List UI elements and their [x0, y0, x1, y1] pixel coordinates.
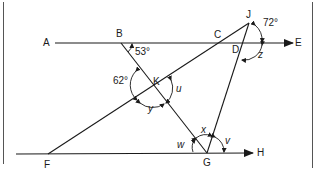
- angle-label-62: 62°: [113, 76, 128, 86]
- angle-label-y: y: [148, 104, 153, 114]
- point-label-A: A: [43, 38, 50, 48]
- line-FH: [16, 153, 253, 154]
- angle-arc-u: [166, 80, 173, 103]
- angle-label-w: w: [177, 140, 184, 150]
- point-label-G: G: [203, 158, 211, 168]
- angle-arc-62: [130, 71, 137, 100]
- geometry-diagram: A B C D E F G H J K 53° 62° 72° u y z x …: [0, 0, 319, 174]
- angle-label-x: x: [201, 125, 206, 135]
- point-label-K: K: [153, 77, 160, 87]
- angle-arc-53: [128, 44, 132, 52]
- angle-arc-v: [215, 137, 224, 152]
- point-label-D: D: [232, 45, 239, 55]
- angle-label-z: z: [258, 50, 263, 60]
- angle-label-53: 53°: [135, 47, 150, 57]
- angle-arc-72: [255, 25, 262, 42]
- point-label-E: E: [295, 38, 302, 48]
- point-label-F: F: [44, 160, 50, 170]
- point-label-C: C: [214, 30, 221, 40]
- angle-label-u: u: [176, 84, 182, 94]
- angle-arc-w: [192, 139, 195, 152]
- point-label-H: H: [257, 148, 264, 158]
- angle-arc-x: [196, 135, 212, 138]
- point-label-J: J: [246, 10, 251, 20]
- angle-label-72: 72°: [263, 18, 278, 28]
- angle-label-v: v: [225, 136, 230, 146]
- point-label-B: B: [116, 29, 123, 39]
